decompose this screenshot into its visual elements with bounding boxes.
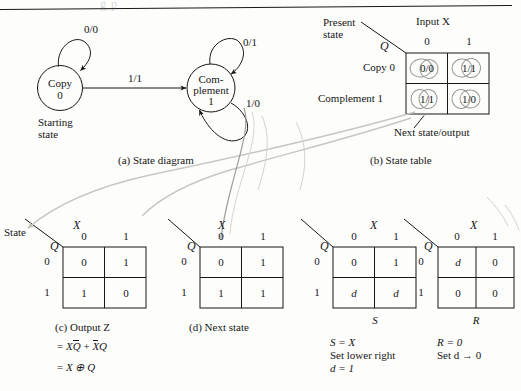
kmap-c-note-1: = XQ + XQ [57, 341, 107, 353]
caption-panel-d: (d) Next state [189, 322, 249, 334]
starting-state-label-line2: state [38, 129, 58, 141]
present-state-label-line1: Present [323, 17, 355, 29]
kmap-s-bottom-var: S [358, 315, 392, 327]
pencil-stray-marks [258, 116, 519, 230]
kmap-r-row-header-1: 1 [414, 287, 428, 299]
kmap-s-col-header-1: 1 [379, 231, 413, 243]
state-complement-code: 1 [189, 96, 233, 108]
kmap-s-cell-0-0: 0 [337, 256, 371, 268]
kmap-r-cell-1-0: 0 [441, 287, 475, 299]
kmap-r-col-header-1: 1 [478, 231, 512, 243]
term-q-1: Q [99, 340, 107, 352]
kmap-r-cell-0-0: d [441, 256, 475, 268]
kmap-s-cell-1-0: d [337, 287, 371, 299]
term-xbar: X [92, 341, 99, 353]
term-qbar: Q [73, 341, 81, 353]
kmap-c-top-var: X [73, 219, 80, 232]
eq-sign-1: = [57, 340, 63, 352]
kmap-c-row-header-1: 1 [40, 287, 54, 299]
kmap-c-corner-left: State [4, 227, 26, 239]
transition-label-copy-to-complement: 1/1 [122, 73, 148, 85]
state-table-cell-0-0: 0/0 [410, 62, 444, 74]
kmap-d-cell-1-1: 1 [246, 287, 280, 299]
kmap-s-note-3-text: d = 1 [330, 362, 354, 374]
kmap-s-note-1-text: S = X [330, 336, 355, 348]
kmap-c-corner-q: Q [50, 240, 59, 253]
state-table-input-header: Input X [416, 16, 450, 28]
kmap-r-row-header-0: 0 [414, 256, 428, 268]
kmap-d-row-header-1: 1 [177, 287, 191, 299]
transition-label-self-loop-complement: 0/1 [237, 37, 263, 49]
kmap-s-row-header-1: 1 [310, 287, 324, 299]
state-copy-code: 0 [46, 90, 74, 102]
kmap-d-corner-q: Q [187, 240, 196, 253]
kmap-c-note-2: = X ⊕ Q [57, 362, 95, 374]
kmap-d-cell-0-1: 1 [246, 256, 280, 268]
kmap-s-cell-0-1: 1 [379, 256, 413, 268]
caption-panel-a: (a) State diagram [118, 155, 194, 167]
pencil-arrow-to-next-state-map [221, 108, 254, 240]
kmap-s-note-2: Set lower right [330, 350, 395, 362]
kmap-d-cell-1-0: 1 [204, 287, 238, 299]
kmap-c-cell-1-0: 1 [67, 287, 101, 299]
caption-panel-c: (c) Output Z [55, 322, 110, 334]
kmap-s-cell-1-1: d [379, 287, 413, 299]
kmap-c-col-header-0: 0 [67, 231, 101, 243]
kmap-r-note-1: R = 0 [437, 337, 462, 349]
state-copy-name: Copy [46, 78, 74, 90]
kmap-r-note-1-text: R = 0 [437, 336, 462, 348]
kmap-c-cell-0-1: 1 [109, 256, 143, 268]
state-table-footnote: Next state/output [394, 127, 469, 139]
kmap-s-col-header-0: 0 [337, 231, 371, 243]
kmap-s-row-header-0: 0 [310, 256, 324, 268]
kmap-r-bottom-var: R [459, 315, 493, 327]
kmap-s-corner-q: Q [320, 240, 329, 253]
kmap-c-col-header-1: 1 [109, 231, 143, 243]
kmap-c-cell-1-1: 0 [109, 287, 143, 299]
xor-expression: X ⊕ Q [66, 361, 95, 373]
kmap-c-cell-0-0: 0 [67, 256, 101, 268]
kmap-r-note-2: Set d → 0 [437, 350, 481, 362]
state-table-row-label-complement: Complement 1 [318, 93, 383, 105]
kmap-c-row-header-0: 0 [40, 256, 54, 268]
kmap-r-top-var: X [470, 219, 477, 232]
input-header-text: Input X [416, 15, 450, 27]
term-x-1: X [66, 340, 73, 352]
state-table-cell-0-1: 1/1 [452, 62, 486, 74]
kmap-r-col-header-0: 0 [440, 231, 474, 243]
kmap-r-note-2-text: Set d → 0 [437, 349, 481, 361]
kmap-d-row-header-0: 0 [177, 256, 191, 268]
transition-label-complement-to-copy: 1/0 [240, 98, 266, 110]
present-state-label-line2: state [323, 29, 343, 41]
plus-sign: + [83, 340, 89, 352]
figure-page: g p [0, 0, 521, 391]
kmap-d-cell-0-0: 0 [204, 256, 238, 268]
state-table-col-header-0: 0 [410, 36, 444, 48]
eq-sign-2: = [57, 361, 63, 373]
transition-label-self-loop-copy: 0/0 [78, 24, 104, 36]
state-table-cell-1-1: 1/0 [452, 93, 486, 105]
state-table-row-label-copy: Copy 0 [363, 62, 395, 74]
state-table-q-symbol: Q [380, 40, 389, 53]
kmap-r-cell-1-1: 0 [478, 287, 512, 299]
kmap-r-corner-q: Q [424, 240, 433, 253]
pencil-annotation-arrows [28, 112, 415, 228]
kmap-r-cell-0-1: 0 [478, 256, 512, 268]
kmap-d-col-header-1: 1 [246, 231, 280, 243]
state-table-cell-1-0: 1/1 [410, 93, 444, 105]
starting-state-label-line1: Starting [38, 117, 73, 129]
kmap-s-top-var: X [370, 219, 377, 232]
caption-panel-b: (b) State table [370, 155, 432, 167]
kmap-d-col-header-0: 0 [204, 231, 238, 243]
kmap-s-note-1: S = X [330, 337, 355, 349]
state-table-col-header-1: 1 [452, 36, 486, 48]
kmap-s-note-3: d = 1 [330, 363, 354, 375]
